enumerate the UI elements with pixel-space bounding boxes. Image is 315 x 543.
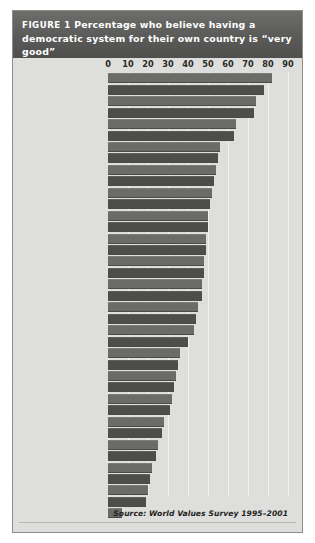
category-label: NORWAY <box>12 118 13 129</box>
category-label: POLAND <box>12 461 13 472</box>
bar <box>108 325 194 335</box>
category-label: DENMARK <box>12 106 13 117</box>
bar-row: GREECE <box>13 83 302 94</box>
bar-row: CHINA <box>13 473 302 484</box>
category-label-slot: YUGOSLAVIA <box>13 278 106 289</box>
category-label: UKRAINE <box>12 496 13 507</box>
category-label: AUSTRALIA <box>12 244 13 255</box>
bar-row: UKRAINE <box>13 496 302 507</box>
category-label-slot: BRITAIN <box>13 324 106 335</box>
category-label: BELARUS <box>12 438 13 449</box>
bar-row: EL SALVADOR <box>13 427 302 438</box>
category-label: TURKEY <box>12 312 13 323</box>
bar-row: ALBANIA <box>13 95 302 106</box>
bar-row: TAIWAN <box>13 450 302 461</box>
bar <box>108 382 174 392</box>
bar <box>108 451 156 461</box>
category-label-slot: GREECE <box>13 83 106 94</box>
bar-row: NORWAY <box>13 118 302 129</box>
bar-row: DENMARK <box>13 106 302 117</box>
bar-row: BRAZIL <box>13 404 302 415</box>
bar <box>108 211 208 221</box>
x-axis-tick-80: 80 <box>262 59 273 69</box>
bar <box>108 108 254 118</box>
bar <box>108 153 218 163</box>
bar <box>108 371 176 381</box>
x-axis-tick-50: 50 <box>202 59 213 69</box>
category-label-slot: INDIA <box>13 301 106 312</box>
bar <box>108 234 206 244</box>
category-label: CANADA <box>12 221 13 232</box>
category-label-slot: SLOVAKIA <box>13 347 106 358</box>
bar <box>108 131 234 141</box>
bar-row: LITHUANIA <box>13 416 302 427</box>
bar-row: INDIA <box>13 301 302 312</box>
bar-row: FRANCE <box>13 232 302 243</box>
bar <box>108 176 214 186</box>
bar <box>108 405 170 415</box>
bar-row: BELARUS <box>13 438 302 449</box>
bar <box>108 337 188 347</box>
category-label-slot: CHINA <box>13 473 106 484</box>
bar-row: JORDAN <box>13 198 302 209</box>
category-label-slot: MOROCCO <box>13 72 106 83</box>
bar-row: BOSNIA <box>13 141 302 152</box>
category-label: CHILE <box>12 381 13 392</box>
category-label-slot: BELARUS <box>13 438 106 449</box>
category-label-slot: SPAIN <box>13 267 106 278</box>
category-label: YUGOSLAVIA <box>12 278 13 289</box>
bar <box>108 73 272 83</box>
category-label-slot: FRANCE <box>13 232 106 243</box>
bar-row: SLOVAKIA <box>13 347 302 358</box>
category-label: SLOVAKIA <box>12 347 13 358</box>
bar <box>108 360 178 370</box>
category-label-slot: POLAND <box>13 461 106 472</box>
bar <box>108 394 172 404</box>
x-axis-tick-labels: 0102030405060708090 <box>13 58 302 72</box>
category-label-slot: EGYPT <box>13 129 106 140</box>
category-label-slot: IRAN <box>13 209 106 220</box>
bar-row: FINLAND <box>13 358 302 369</box>
bar <box>108 485 148 495</box>
bar <box>108 314 196 324</box>
source-note: Source: World Values Survey 1995–2001 <box>13 509 288 518</box>
category-label-slot: IRELAND <box>13 255 106 266</box>
category-label-slot: JAPAN <box>13 335 106 346</box>
figure-number: FIGURE 1 <box>22 20 71 30</box>
bar-row: YUGOSLAVIA <box>13 278 302 289</box>
x-axis-tick-90: 90 <box>282 59 293 69</box>
category-label-slot: DENMARK <box>13 106 106 117</box>
category-label: COLOMBIA <box>12 370 13 381</box>
x-axis-tick-40: 40 <box>182 59 193 69</box>
category-label: BRITAIN <box>12 324 13 335</box>
category-label: GREECE <box>12 83 13 94</box>
bar <box>108 291 202 301</box>
bar <box>108 188 212 198</box>
bar <box>108 417 164 427</box>
bar-row: POLAND <box>13 461 302 472</box>
bar <box>108 85 264 95</box>
category-label: MOROCCO <box>12 72 13 83</box>
category-label-slot: BRAZIL <box>13 404 106 415</box>
category-label: EL SALVADOR <box>12 427 13 438</box>
category-label-slot: ALBANIA <box>13 95 106 106</box>
category-label: LITHUANIA <box>12 416 13 427</box>
category-label-slot: EL SALVADOR <box>13 427 106 438</box>
bar-row: ALGERIA <box>13 152 302 163</box>
bar-row: GERMANY <box>13 164 302 175</box>
category-label: JORDAN <box>12 198 13 209</box>
category-label: BOSNIA <box>12 141 13 152</box>
category-label-slot: LATVIA <box>13 484 106 495</box>
category-label: UNITED STATES <box>12 187 13 198</box>
category-label-slot: GERMANY <box>13 164 106 175</box>
category-label: PAKISTAN <box>12 175 13 186</box>
bar-series: MOROCCOGREECEALBANIADENMARKNORWAYEGYPTBO… <box>13 72 302 496</box>
category-label: ALGERIA <box>12 152 13 163</box>
category-label: EGYPT <box>12 129 13 140</box>
bar-row: PAKISTAN <box>13 175 302 186</box>
bar-row: SPAIN <box>13 267 302 278</box>
bar-row: UNITED STATES <box>13 187 302 198</box>
bar <box>108 474 150 484</box>
category-label-slot: LITHUANIA <box>13 416 106 427</box>
category-label: TAIWAN <box>12 450 13 461</box>
